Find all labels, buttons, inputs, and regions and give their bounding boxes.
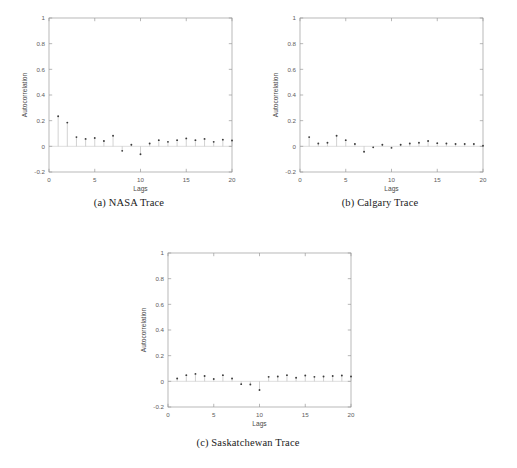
stem-marker: [363, 151, 365, 153]
y-tick-label: 0.6: [287, 66, 296, 73]
y-tick-label: 0.4: [287, 91, 296, 98]
y-tick-label: -0.2: [285, 168, 296, 175]
panel-calgary: 05101520-0.200.20.40.60.81LagsAutocorrel…: [251, 6, 509, 218]
plot-nasa: 05101520-0.200.20.40.60.81LagsAutocorrel…: [0, 6, 258, 196]
stem-marker: [222, 139, 224, 141]
y-axis-title: Autocorrelation: [21, 72, 28, 117]
caption-saskatchewan: (c) Saskatchewan Trace: [119, 437, 377, 448]
x-tick-label: 15: [434, 176, 441, 183]
plot-saskatchewan: 05101520-0.200.20.40.60.81LagsAutocorrel…: [119, 241, 377, 431]
panel-saskatchewan: 05101520-0.200.20.40.60.81LagsAutocorrel…: [119, 241, 377, 453]
stem-marker: [345, 139, 347, 141]
stem-marker: [336, 135, 338, 137]
stem-marker: [222, 374, 224, 376]
y-tick-label: 1: [161, 249, 165, 256]
y-axis-title: Autocorrelation: [140, 307, 147, 352]
y-tick-label: 1: [42, 14, 46, 21]
stem-marker: [176, 378, 178, 380]
y-tick-label: 0.8: [155, 275, 164, 282]
stem-marker: [149, 143, 151, 145]
x-tick-label: 10: [137, 176, 144, 183]
chart-svg-saskatchewan: 05101520-0.200.20.40.60.81LagsAutocorrel…: [119, 241, 377, 431]
stem-marker: [381, 144, 383, 146]
caption-nasa: (a) NASA Trace: [0, 197, 258, 208]
plot-calgary: 05101520-0.200.20.40.60.81LagsAutocorrel…: [251, 6, 509, 196]
y-tick-label: 0.8: [287, 40, 296, 47]
stem-marker: [418, 142, 420, 144]
stem-marker: [57, 115, 59, 117]
y-tick-label: 0.6: [36, 66, 45, 73]
stem-marker: [332, 375, 334, 377]
x-tick-label: 0: [166, 411, 170, 418]
stem-marker: [323, 376, 325, 378]
caption-calgary: (b) Calgary Trace: [251, 197, 509, 208]
stem-marker: [195, 373, 197, 375]
x-tick-label: 0: [47, 176, 51, 183]
panel-nasa: 05101520-0.200.20.40.60.81LagsAutocorrel…: [0, 6, 258, 218]
x-tick-label: 15: [183, 176, 190, 183]
stem-marker: [400, 144, 402, 146]
stem-marker: [391, 147, 393, 149]
stem-marker: [231, 140, 233, 142]
stem-marker: [158, 139, 160, 141]
stem-marker: [249, 384, 251, 386]
x-axis-ticks: 05101520: [298, 18, 487, 183]
stem-marker: [308, 136, 310, 138]
stem-marker: [455, 143, 457, 145]
autocorrelation-figure: 05101520-0.200.20.40.60.81LagsAutocorrel…: [0, 0, 517, 468]
y-axis-ticks: -0.200.20.40.60.81: [153, 249, 351, 410]
axis-frame: [300, 18, 483, 172]
stem-series: [308, 135, 484, 153]
x-tick-label: 5: [344, 176, 348, 183]
stem-marker: [130, 144, 132, 146]
y-tick-label: 0.2: [155, 352, 164, 359]
x-tick-label: 20: [480, 176, 487, 183]
y-tick-label: -0.2: [34, 168, 45, 175]
stem-marker: [231, 378, 233, 380]
stem-marker: [295, 377, 297, 379]
stem-marker: [140, 153, 142, 155]
y-tick-label: 0: [161, 378, 165, 385]
stem-marker: [350, 376, 352, 378]
y-tick-label: 0.8: [36, 40, 45, 47]
x-tick-label: 20: [229, 176, 236, 183]
x-tick-label: 10: [256, 411, 263, 418]
stem-marker: [240, 383, 242, 385]
stem-marker: [259, 389, 261, 391]
x-axis-title: Lags: [252, 420, 267, 428]
stem-series: [57, 115, 233, 155]
stem-marker: [204, 375, 206, 377]
chart-svg-calgary: 05101520-0.200.20.40.60.81LagsAutocorrel…: [251, 6, 509, 196]
y-tick-label: 0.4: [36, 91, 45, 98]
stem-marker: [85, 138, 87, 140]
stem-marker: [327, 142, 329, 144]
x-axis-ticks: 05101520: [166, 253, 355, 418]
stem-marker: [213, 378, 215, 380]
stem-marker: [176, 139, 178, 141]
stem-marker: [445, 143, 447, 145]
stem-marker: [317, 143, 319, 145]
x-tick-label: 20: [348, 411, 355, 418]
stem-marker: [167, 141, 169, 143]
stem-marker: [112, 135, 114, 137]
y-tick-label: 0: [293, 143, 297, 150]
chart-svg-nasa: 05101520-0.200.20.40.60.81LagsAutocorrel…: [0, 6, 258, 196]
stem-marker: [372, 146, 374, 148]
y-tick-label: 0.2: [36, 117, 45, 124]
y-tick-label: 0.6: [155, 301, 164, 308]
stem-marker: [427, 140, 429, 142]
stem-marker: [482, 145, 484, 147]
stem-marker: [194, 139, 196, 141]
y-axis-ticks: -0.200.20.40.60.81: [34, 14, 232, 175]
y-tick-label: -0.2: [153, 403, 164, 410]
y-tick-label: 0: [42, 143, 46, 150]
stem-marker: [185, 137, 187, 139]
stem-marker: [409, 143, 411, 145]
stem-marker: [76, 136, 78, 138]
x-tick-label: 5: [93, 176, 97, 183]
x-tick-label: 10: [388, 176, 395, 183]
stem-marker: [204, 138, 206, 140]
x-axis-title: Lags: [384, 185, 399, 193]
stem-marker: [436, 142, 438, 144]
stem-marker: [286, 374, 288, 376]
